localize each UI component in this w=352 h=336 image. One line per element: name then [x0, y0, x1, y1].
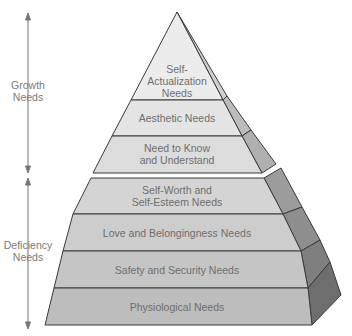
- svg-text:Safety and Security Needs: Safety and Security Needs: [115, 264, 239, 276]
- svg-text:Needs: Needs: [13, 251, 43, 263]
- label-love-belonging: Love and Belongingness Needs: [103, 227, 251, 239]
- svg-text:Deficiency: Deficiency: [4, 239, 53, 251]
- svg-text:Need to Know: Need to Know: [144, 142, 210, 154]
- svg-text:Needs: Needs: [13, 91, 43, 103]
- svg-text:Aesthetic Needs: Aesthetic Needs: [139, 112, 215, 124]
- growth-needs-label: Growth Needs: [11, 79, 45, 103]
- svg-text:Self-: Self-: [166, 63, 188, 75]
- pyramid-svg: Growth Needs Deficiency Needs: [0, 0, 352, 336]
- label-aesthetic: Aesthetic Needs: [139, 112, 215, 124]
- deficiency-needs-label: Deficiency Needs: [4, 239, 53, 263]
- maslow-pyramid-diagram: Growth Needs Deficiency Needs: [0, 0, 352, 336]
- svg-text:Needs: Needs: [162, 87, 192, 99]
- svg-text:Physiological Needs: Physiological Needs: [130, 301, 225, 313]
- label-self-esteem: Self-Worth and Self-Esteem Needs: [132, 184, 222, 208]
- svg-text:and Understand: and Understand: [140, 154, 215, 166]
- svg-text:Actualization: Actualization: [147, 75, 207, 87]
- svg-text:Love and Belongingness Needs: Love and Belongingness Needs: [103, 227, 251, 239]
- svg-text:Self-Worth and: Self-Worth and: [142, 184, 212, 196]
- svg-text:Self-Esteem Needs: Self-Esteem Needs: [132, 196, 222, 208]
- label-safety-security: Safety and Security Needs: [115, 264, 239, 276]
- svg-text:Growth: Growth: [11, 79, 45, 91]
- label-know-understand: Need to Know and Understand: [140, 142, 215, 166]
- label-physiological: Physiological Needs: [130, 301, 225, 313]
